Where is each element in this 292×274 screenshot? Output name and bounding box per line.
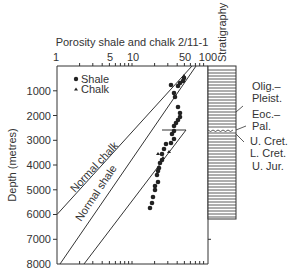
chalk-marker-icon: [74, 88, 78, 91]
stratigraphy-column: [208, 66, 246, 219]
y-tick-8000: 8000: [27, 258, 51, 270]
strat-u-cret: U. Cret.: [250, 135, 288, 147]
legend-chalk: Chalk: [81, 83, 110, 95]
strat-olig: Olig.–: [252, 80, 282, 92]
y-tick-2000: 2000: [27, 110, 51, 122]
x-tick-50: 50: [179, 51, 191, 63]
strat-eoc: Eoc.–: [252, 108, 281, 120]
x-tick-10: 10: [127, 51, 139, 63]
chart: Porosity shale and chalk 2/11-1 1 5 10 5…: [0, 0, 292, 274]
y-tick-7000: 7000: [27, 233, 51, 245]
x-tick-1: 1: [53, 51, 59, 63]
x-tick-5: 5: [107, 51, 113, 63]
x-tick-labels: 1 5 10 50 100: [53, 51, 217, 63]
shale-marker-icon: [74, 77, 78, 81]
axes: [53, 63, 211, 264]
y-tick-4000: 4000: [27, 159, 51, 171]
y-tick-1000: 1000: [27, 85, 51, 97]
x-tick-100: 100: [199, 51, 217, 63]
y-tick-6000: 6000: [27, 208, 51, 220]
x-axis-title: Porosity shale and chalk 2/11-1: [56, 36, 209, 48]
strat-pal: Pal.: [252, 120, 271, 132]
y-tick-5000: 5000: [27, 184, 51, 196]
y-tick-3000: 3000: [27, 134, 51, 146]
y-axis-title: Depth (metres): [6, 128, 18, 201]
shale-points: [148, 76, 187, 211]
y-tick-labels: 1000 2000 3000 4000 5000 6000 7000 8000: [27, 85, 51, 270]
legend: Shale Chalk: [74, 73, 110, 95]
strat-pleist: Pleist.: [252, 92, 282, 104]
strat-u-jur: U. Jur.: [252, 160, 284, 172]
stratigraphy-title: Stratigraphy: [216, 2, 228, 62]
strat-l-cret: L. Cret.: [250, 147, 286, 159]
stratigraphy-units: Olig.– Pleist. Eoc.– Pal. U. Cret. L. Cr…: [250, 80, 288, 172]
